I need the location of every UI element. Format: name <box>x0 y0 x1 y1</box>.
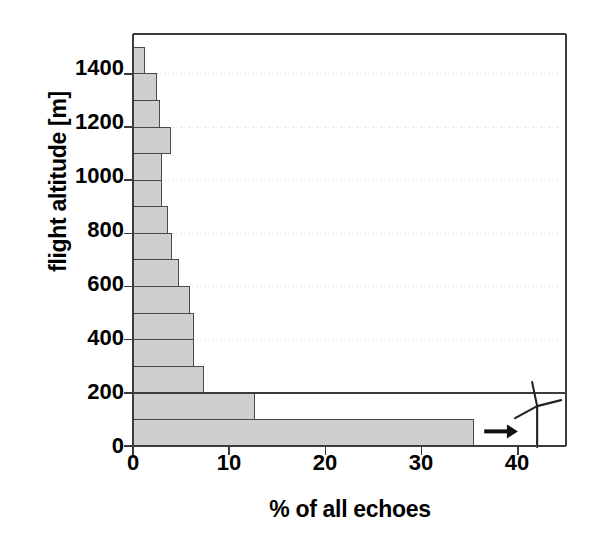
histogram-bar <box>133 154 162 181</box>
histogram-bar <box>133 100 160 127</box>
histogram-bar <box>133 419 474 446</box>
histogram-bar <box>133 287 190 314</box>
histogram-bar <box>133 260 178 287</box>
arrow-right-icon <box>484 424 518 438</box>
histogram-bar <box>133 340 194 367</box>
histogram-bar <box>133 393 254 420</box>
histogram-bar <box>133 233 171 260</box>
histogram-bar <box>133 127 171 154</box>
grid-lines <box>133 74 566 393</box>
histogram-bar <box>133 366 203 393</box>
histogram-bar <box>133 47 145 74</box>
histogram-bar <box>133 207 168 234</box>
histogram-bar <box>133 313 194 340</box>
histogram-bar <box>133 180 162 207</box>
chart-figure: flight altitude [m] 1400 1200 1000 800 6… <box>0 0 597 546</box>
histogram-bar <box>133 74 156 101</box>
bar-series <box>133 47 474 446</box>
wind-turbine-icon <box>515 382 561 447</box>
plot-area <box>0 0 597 546</box>
